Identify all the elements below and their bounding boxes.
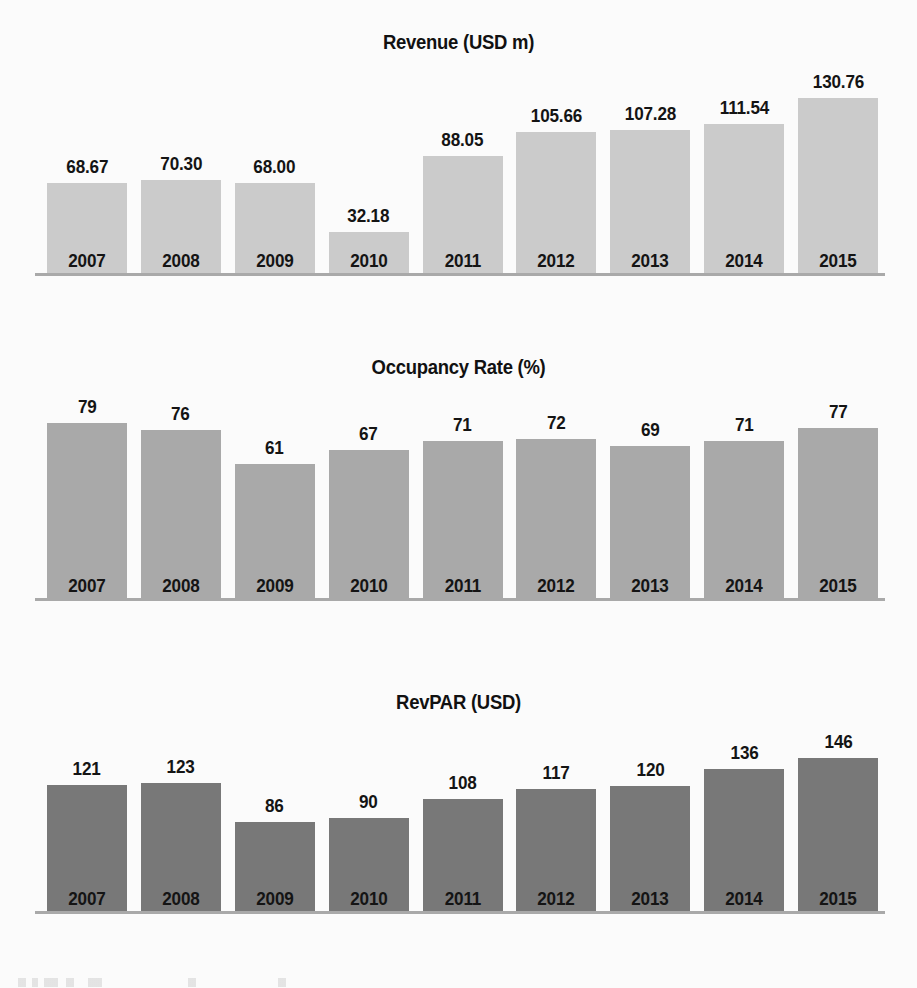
x-axis-tick-label: 2007 bbox=[45, 888, 130, 910]
bar-value-label: 76 bbox=[172, 404, 191, 423]
bar-slot: 88.05 bbox=[416, 64, 510, 276]
x-axis-line-revenue bbox=[35, 273, 885, 276]
bar-slot: 70.30 bbox=[134, 64, 228, 276]
bar-slot: 136 bbox=[697, 724, 791, 914]
chart-title-wrap-revpar: RevPAR (USD) bbox=[0, 690, 917, 724]
x-axis-tick-label: 2015 bbox=[796, 575, 881, 597]
bar-value-label: 146 bbox=[824, 732, 852, 751]
x-axis-tick-label: 2008 bbox=[139, 250, 224, 272]
bar-slot: 61 bbox=[228, 389, 322, 601]
bar-slot: 107.28 bbox=[603, 64, 697, 276]
bar-value-label: 88.05 bbox=[442, 130, 484, 149]
bar-slot: 121 bbox=[40, 724, 134, 914]
plot-area-revenue: 68.6770.3068.0032.1888.05105.66107.28111… bbox=[0, 64, 917, 276]
x-axis-labels-occupancy: 200720082009201020112012201320142015 bbox=[40, 575, 885, 597]
plot-area-revpar: 1211238690108117120136146 bbox=[0, 724, 917, 914]
x-axis-tick-label: 2010 bbox=[326, 575, 411, 597]
x-axis-tick-label: 2014 bbox=[702, 575, 787, 597]
bar-value-label: 67 bbox=[359, 424, 378, 443]
x-axis-tick-label: 2013 bbox=[608, 575, 693, 597]
bar-value-label: 86 bbox=[265, 796, 284, 815]
x-axis-tick-label: 2014 bbox=[702, 888, 787, 910]
bar-slot: 117 bbox=[509, 724, 603, 914]
bar-value-label: 123 bbox=[167, 757, 195, 776]
bar-value-label: 117 bbox=[543, 763, 570, 782]
x-axis-labels-revpar: 200720082009201020112012201320142015 bbox=[40, 888, 885, 910]
chart-panel-revenue: Revenue (USD m) 68.6770.3068.0032.1888.0… bbox=[0, 30, 917, 276]
bar-value-label: 120 bbox=[636, 760, 664, 779]
x-axis-line-occupancy bbox=[35, 598, 885, 601]
chart-title-revpar: RevPAR (USD) bbox=[55, 690, 862, 714]
x-axis-tick-label: 2008 bbox=[139, 575, 224, 597]
x-axis-tick-label: 2013 bbox=[608, 888, 693, 910]
bar-slot: 146 bbox=[791, 724, 885, 914]
bar-slot: 77 bbox=[791, 389, 885, 601]
bar-value-label: 61 bbox=[265, 438, 284, 457]
bar-value-label: 70.30 bbox=[160, 154, 202, 173]
x-axis-tick-label: 2011 bbox=[420, 575, 505, 597]
bar-value-label: 136 bbox=[730, 743, 758, 762]
x-axis-tick-label: 2015 bbox=[796, 250, 881, 272]
x-axis-tick-label: 2007 bbox=[45, 250, 130, 272]
bar-slot: 123 bbox=[134, 724, 228, 914]
bar-slot: 69 bbox=[603, 389, 697, 601]
bar-group-revpar: 1211238690108117120136146 bbox=[40, 724, 885, 914]
chart-panel-occupancy: Occupancy Rate (%) 797661677172697177 20… bbox=[0, 355, 917, 601]
x-axis-tick-label: 2009 bbox=[232, 888, 317, 910]
bar-value-label: 32.18 bbox=[348, 206, 390, 225]
bar-slot: 111.54 bbox=[697, 64, 791, 276]
x-axis-tick-label: 2007 bbox=[45, 575, 130, 597]
bar-value-label: 71 bbox=[735, 415, 754, 434]
x-axis-labels-revenue: 200720082009201020112012201320142015 bbox=[40, 250, 885, 272]
bar-value-label: 90 bbox=[359, 792, 378, 811]
bar-slot: 32.18 bbox=[322, 64, 416, 276]
x-axis-tick-label: 2011 bbox=[420, 888, 505, 910]
bar-group-occupancy: 797661677172697177 bbox=[40, 389, 885, 601]
bar-value-label: 69 bbox=[641, 420, 660, 439]
bar-value-label: 105.66 bbox=[531, 106, 582, 125]
x-axis-line-revpar bbox=[35, 911, 885, 914]
x-axis-tick-label: 2010 bbox=[326, 250, 411, 272]
chart-title-wrap-occupancy: Occupancy Rate (%) bbox=[0, 355, 917, 389]
x-axis-tick-label: 2011 bbox=[420, 250, 505, 272]
x-axis-tick-label: 2012 bbox=[514, 250, 599, 272]
chart-title-revenue: Revenue (USD m) bbox=[55, 30, 862, 54]
bar-group-revenue: 68.6770.3068.0032.1888.05105.66107.28111… bbox=[40, 64, 885, 276]
bar-value-label: 77 bbox=[829, 402, 848, 421]
x-axis-tick-label: 2009 bbox=[232, 250, 317, 272]
bar-slot: 130.76 bbox=[791, 64, 885, 276]
bar-slot: 72 bbox=[509, 389, 603, 601]
bar-slot: 68.67 bbox=[40, 64, 134, 276]
bar-slot: 90 bbox=[322, 724, 416, 914]
x-axis-tick-label: 2015 bbox=[796, 888, 881, 910]
bar-value-label: 71 bbox=[453, 415, 472, 434]
x-axis-tick-label: 2014 bbox=[702, 250, 787, 272]
x-axis-tick-label: 2012 bbox=[514, 575, 599, 597]
chart-title-wrap-revenue: Revenue (USD m) bbox=[0, 30, 917, 64]
bar-value-label: 111.54 bbox=[720, 98, 769, 117]
bar-value-label: 108 bbox=[449, 773, 477, 792]
bar-value-label: 107.28 bbox=[625, 104, 676, 123]
chart-panel-revpar: RevPAR (USD) 1211238690108117120136146 2… bbox=[0, 690, 917, 914]
x-axis-tick-label: 2010 bbox=[326, 888, 411, 910]
bar-slot: 79 bbox=[40, 389, 134, 601]
chart-page: Revenue (USD m) 68.6770.3068.0032.1888.0… bbox=[0, 0, 917, 988]
bar-slot: 76 bbox=[134, 389, 228, 601]
bar-value-label: 79 bbox=[78, 397, 97, 416]
chart-title-occupancy: Occupancy Rate (%) bbox=[55, 355, 862, 379]
bar-slot: 108 bbox=[416, 724, 510, 914]
bar-slot: 71 bbox=[416, 389, 510, 601]
bar-slot: 120 bbox=[603, 724, 697, 914]
bar-value-label: 121 bbox=[73, 759, 101, 778]
bar-value-label: 130.76 bbox=[812, 72, 863, 91]
x-axis-tick-label: 2008 bbox=[139, 888, 224, 910]
bar-slot: 68.00 bbox=[228, 64, 322, 276]
bar-value-label: 68.67 bbox=[66, 157, 108, 176]
bar-slot: 67 bbox=[322, 389, 416, 601]
bar-value-label: 72 bbox=[547, 413, 566, 432]
bar-value-label: 68.00 bbox=[254, 157, 296, 176]
x-axis-tick-label: 2009 bbox=[232, 575, 317, 597]
plot-area-occupancy: 797661677172697177 bbox=[0, 389, 917, 601]
page-footer-artifact bbox=[18, 978, 348, 987]
x-axis-tick-label: 2012 bbox=[514, 888, 599, 910]
